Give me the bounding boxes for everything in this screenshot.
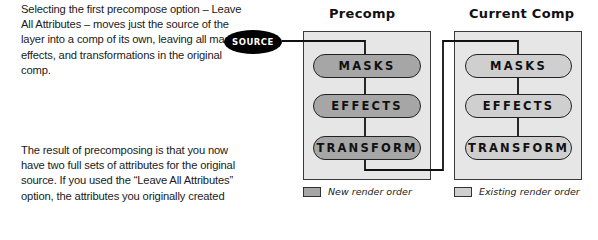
precomp-effects-pill: EFFECTS xyxy=(313,94,421,118)
legend-label-existing: Existing render order xyxy=(479,186,580,197)
legend-new-render-order: New render order xyxy=(303,186,412,197)
precomp-transform-pill: TRANSFORM xyxy=(313,136,421,160)
current-transform-pill: TRANSFORM xyxy=(465,136,572,160)
legend-swatch-existing xyxy=(454,187,472,197)
legend-existing-render-order: Existing render order xyxy=(454,186,580,197)
precomp-masks-pill: MASKS xyxy=(313,54,421,78)
current-effects-pill: EFFECTS xyxy=(465,94,572,118)
legend-swatch-new xyxy=(303,187,321,197)
current-masks-pill: MASKS xyxy=(465,54,572,78)
legend-label-new: New render order xyxy=(328,186,412,197)
source-node: SOURCE xyxy=(224,30,282,54)
